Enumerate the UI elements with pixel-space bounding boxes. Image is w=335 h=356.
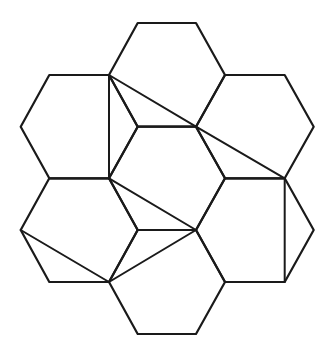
hexagon-group <box>21 23 314 334</box>
hexagon-lower-right <box>196 178 314 282</box>
hexagon-upper-right <box>196 75 314 178</box>
hexagon-upper-left <box>21 75 138 178</box>
hexagon-diagram <box>0 0 335 356</box>
segment-diagonal-bottom-center <box>109 230 196 282</box>
hexagon-center <box>109 127 225 230</box>
segment-diagonal-center-lower <box>109 178 196 230</box>
hexagon-lower-left <box>21 178 138 282</box>
hexagon-top <box>109 23 225 127</box>
segment-diagonal-top <box>109 75 196 127</box>
hexagon-bottom <box>109 230 225 334</box>
